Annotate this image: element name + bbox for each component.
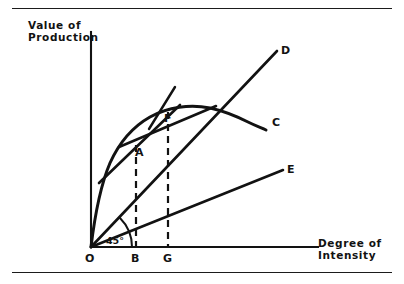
production-curve-c [91,106,266,247]
y-axis-title: Value of Production [28,20,99,43]
label-curve-c: C [272,116,280,129]
economics-diagram-figure: Value of Production Degree of Intensity … [0,0,404,284]
label-point-b: B [131,252,139,265]
angle-label-45: 45° [106,235,124,246]
label-point-a: A [135,146,144,159]
label-point-g: G [163,252,172,265]
top-horizontal-rule [12,8,392,9]
x-axis-title: Degree of Intensity [318,238,382,261]
label-curve-e: E [287,163,295,176]
label-curve-d: D [281,44,290,57]
bottom-horizontal-rule [12,272,392,273]
label-point-o: O [85,252,94,265]
label-point-f: F [164,112,172,125]
